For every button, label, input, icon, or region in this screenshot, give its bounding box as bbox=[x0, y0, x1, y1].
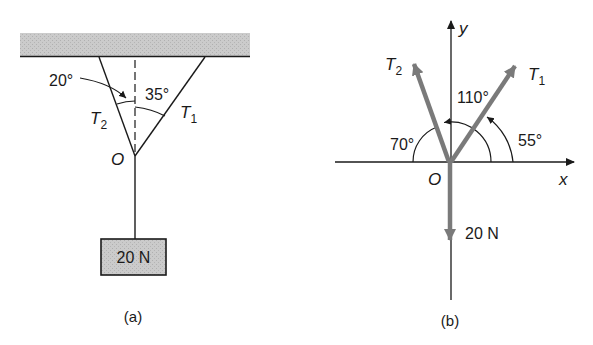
figure-a: 20° 35° T2 T1 O 20 N (a) bbox=[20, 33, 250, 325]
angle-label-110: 110° bbox=[457, 89, 489, 106]
tension-label-t2-b: T2 bbox=[385, 55, 402, 78]
y-axis-label: y bbox=[458, 19, 469, 38]
ceiling bbox=[20, 33, 250, 56]
angle-arc-20 bbox=[117, 101, 135, 104]
free-body-diagram-figure: 20° 35° T2 T1 O 20 N (a) y x T2 bbox=[0, 0, 593, 345]
rope-t2 bbox=[99, 57, 135, 156]
figure-b: y x T2 T1 110° 70° 55° O 20 N (b) bbox=[335, 19, 574, 329]
vector-t2 bbox=[414, 64, 449, 162]
origin-label-a: O bbox=[111, 150, 124, 169]
angle-label-70: 70° bbox=[390, 136, 414, 153]
caption-a: (a) bbox=[124, 308, 142, 325]
vector-t1 bbox=[451, 66, 515, 162]
angle-label-20: 20° bbox=[49, 72, 73, 89]
angle-arc-35 bbox=[135, 107, 165, 116]
caption-b: (b) bbox=[441, 312, 459, 329]
weight-label-b: 20 N bbox=[465, 225, 499, 242]
rope-t1 bbox=[135, 57, 205, 156]
angle-label-35: 35° bbox=[145, 86, 169, 103]
weight-label-a: 20 N bbox=[117, 249, 151, 266]
angle-arc-70 bbox=[413, 127, 437, 162]
angle-pointer-20 bbox=[80, 78, 126, 98]
origin-label-b: O bbox=[428, 170, 441, 189]
x-axis-label: x bbox=[558, 170, 568, 189]
angle-label-55: 55° bbox=[518, 132, 542, 149]
tension-label-t2: T2 bbox=[90, 109, 107, 132]
tension-label-t1-b: T1 bbox=[528, 65, 545, 88]
tension-label-t1: T1 bbox=[180, 103, 197, 126]
